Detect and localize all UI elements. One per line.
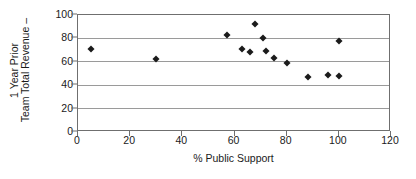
x-axis-title: % Public Support xyxy=(77,152,390,164)
y-axis-title-line-1: Team Total Revenue – xyxy=(20,18,31,122)
data-point xyxy=(325,71,332,78)
y-axis-tick-mark xyxy=(71,84,77,85)
y-axis-tick-mark xyxy=(71,107,77,108)
x-axis-tick-labels: 020406080100120 xyxy=(77,134,390,148)
x-axis-tick-mark xyxy=(77,131,78,136)
gridline xyxy=(78,85,389,86)
y-axis-tick-mark xyxy=(71,60,77,61)
y-axis-tick-mark xyxy=(71,37,77,38)
gridline xyxy=(78,38,389,39)
scatter-chart: 1 Year Prior Team Total Revenue – 020406… xyxy=(0,0,416,179)
x-axis-tick-mark xyxy=(338,131,339,136)
data-point xyxy=(270,54,277,61)
x-axis-tick-mark xyxy=(390,131,391,136)
data-point xyxy=(87,45,94,52)
data-point xyxy=(247,48,254,55)
plot-area xyxy=(77,14,390,131)
x-axis-tick-mark xyxy=(181,131,182,136)
x-axis-tick-mark xyxy=(129,131,130,136)
y-axis-tick-mark xyxy=(71,14,77,15)
data-point xyxy=(262,47,269,54)
y-axis-title: 1 Year Prior Team Total Revenue – xyxy=(0,0,40,140)
y-axis-tick-labels: 020406080100 xyxy=(44,14,73,131)
data-point xyxy=(335,73,342,80)
x-axis-tick-mark xyxy=(286,131,287,136)
gridline xyxy=(78,108,389,109)
x-axis-tick-mark xyxy=(234,131,235,136)
data-point xyxy=(252,21,259,28)
data-point xyxy=(260,35,267,42)
data-point xyxy=(239,45,246,52)
gridline xyxy=(78,61,389,62)
data-point xyxy=(335,38,342,45)
data-point xyxy=(304,73,311,80)
